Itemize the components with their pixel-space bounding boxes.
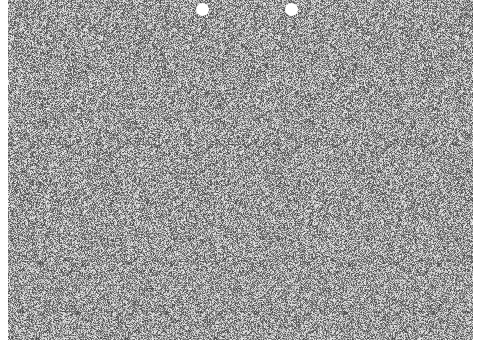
right-guide-dot [285,3,298,16]
left-guide-dot [196,3,209,16]
stereogram-noise-field [8,0,473,340]
